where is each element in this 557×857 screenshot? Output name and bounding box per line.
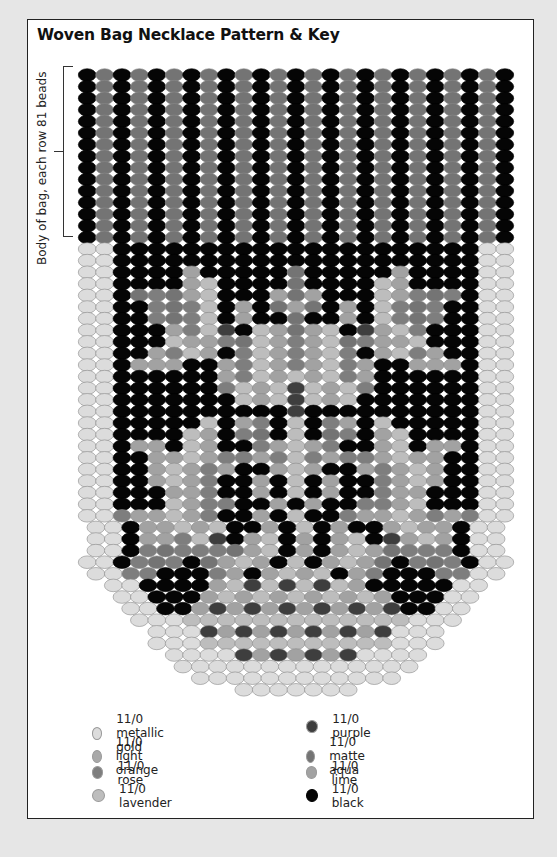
bead (218, 649, 236, 662)
bead (479, 301, 497, 314)
bead (461, 162, 479, 175)
bead (426, 324, 444, 337)
bead (113, 301, 131, 314)
bead (235, 301, 253, 314)
bead (78, 370, 96, 383)
bead (174, 579, 192, 592)
bead (252, 115, 270, 128)
bead (357, 150, 375, 163)
bead (270, 486, 288, 499)
bead (131, 324, 149, 337)
bead (235, 440, 253, 453)
bead (78, 138, 96, 151)
bead (165, 162, 183, 175)
bead (252, 336, 270, 349)
bead (444, 359, 462, 372)
bead (322, 69, 340, 82)
bead (270, 173, 288, 186)
bead (244, 602, 262, 615)
bead (357, 347, 375, 360)
bead (479, 266, 497, 279)
bead (496, 104, 514, 117)
bead (496, 92, 514, 105)
bead (374, 301, 392, 314)
bead (287, 231, 305, 244)
bead (392, 591, 410, 604)
bead (444, 475, 462, 488)
bead (191, 579, 209, 592)
bead (444, 556, 462, 569)
bead (131, 428, 149, 441)
bead (148, 173, 166, 186)
bead (200, 486, 218, 499)
bead (183, 254, 201, 267)
bead (235, 196, 253, 209)
bead (357, 324, 375, 337)
bead (305, 254, 323, 267)
bead (479, 162, 497, 175)
bead (426, 440, 444, 453)
bead (400, 544, 418, 557)
bead (113, 92, 131, 105)
bead (374, 498, 392, 511)
bead (461, 312, 479, 325)
bead (374, 208, 392, 221)
bead (200, 637, 218, 650)
bead (148, 127, 166, 140)
bead (357, 614, 375, 627)
bead (113, 405, 131, 418)
bead (252, 440, 270, 453)
bead (287, 150, 305, 163)
bead (78, 486, 96, 499)
bead (479, 428, 497, 441)
bead (322, 394, 340, 407)
bead (148, 208, 166, 221)
bead (235, 173, 253, 186)
bead (235, 115, 253, 128)
bead (409, 324, 427, 337)
bead (148, 185, 166, 198)
bead (148, 440, 166, 453)
bead (78, 428, 96, 441)
bead (374, 591, 392, 604)
bead (496, 428, 514, 441)
bead (131, 104, 149, 117)
bead (444, 382, 462, 395)
bead (479, 289, 497, 302)
bead (357, 92, 375, 105)
bead (165, 278, 183, 291)
bead (226, 521, 244, 534)
bead (78, 463, 96, 476)
bead (348, 568, 366, 581)
bead (409, 289, 427, 302)
bead (209, 660, 227, 673)
bead (444, 243, 462, 256)
bead (409, 347, 427, 360)
bead (357, 475, 375, 488)
bead (278, 544, 296, 557)
bead (339, 649, 357, 662)
bead (496, 266, 514, 279)
bead (409, 231, 427, 244)
bead (218, 405, 236, 418)
bead (270, 684, 288, 697)
bead (278, 568, 296, 581)
bead (392, 162, 410, 175)
bead (218, 312, 236, 325)
bead (148, 301, 166, 314)
bead (461, 370, 479, 383)
bead (374, 649, 392, 662)
bead (374, 324, 392, 337)
bead (78, 417, 96, 430)
bead (461, 220, 479, 233)
bead (131, 278, 149, 291)
bead (305, 614, 323, 627)
bead (392, 382, 410, 395)
bead (374, 475, 392, 488)
bead (444, 162, 462, 175)
bead (148, 486, 166, 499)
bead (305, 289, 323, 302)
bead (392, 614, 410, 627)
bead (339, 684, 357, 697)
bead (392, 510, 410, 523)
